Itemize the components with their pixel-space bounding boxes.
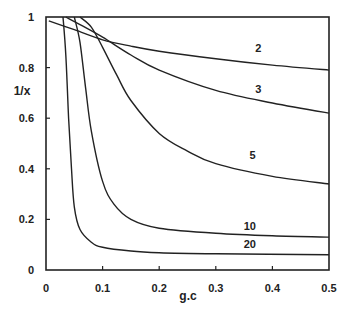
x-tick-label: 0.2: [152, 282, 167, 294]
y-axis-title: 1/x: [14, 84, 31, 98]
chart: 00.10.20.30.40.500.20.40.60.81 2351020 g…: [0, 0, 355, 317]
y-tick-label: 0.4: [19, 163, 35, 175]
y-tick-label: 0.2: [19, 213, 34, 225]
curve-label-5: 5: [250, 149, 256, 161]
x-tick-label: 0.3: [208, 282, 223, 294]
curve-label-2: 2: [255, 42, 261, 54]
y-tick-label: 0: [28, 264, 34, 276]
curve-label-20: 20: [244, 238, 256, 250]
x-tick-label: 0: [43, 282, 49, 294]
curve-label-3: 3: [255, 83, 261, 95]
curve-10: [74, 17, 329, 237]
curve-20: [63, 17, 329, 255]
x-tick-label: 0.5: [321, 282, 336, 294]
curve-3: [66, 17, 329, 113]
data-curves: [49, 17, 329, 255]
curve-5: [80, 17, 329, 184]
curve-labels: 2351020: [244, 42, 262, 250]
x-tick-label: 0.4: [265, 282, 281, 294]
curve-2: [49, 21, 329, 70]
x-tick-label: 0.1: [95, 282, 110, 294]
y-tick-label: 0.8: [19, 62, 34, 74]
y-tick-label: 0.6: [19, 112, 34, 124]
x-axis-title: g.c: [179, 289, 197, 303]
y-tick-label: 1: [28, 11, 34, 23]
curve-label-10: 10: [244, 220, 256, 232]
